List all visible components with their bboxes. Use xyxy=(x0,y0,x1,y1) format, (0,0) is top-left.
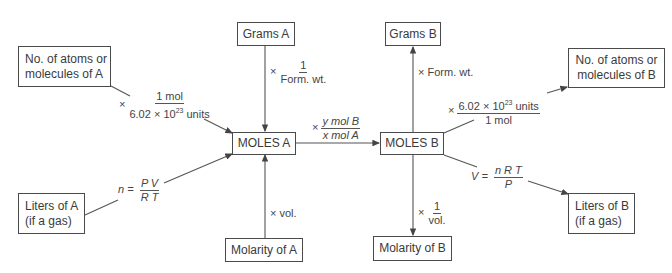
ideal-gas-volume-b-formula: V = n R TP xyxy=(471,164,523,191)
liters-b-line1: Liters of B xyxy=(575,199,629,214)
moles-a-box: MOLES A xyxy=(232,132,296,155)
moles-to-molarity-b-factor: ×1vol. xyxy=(418,200,447,227)
atoms-a-box: No. of atoms or molecules of A xyxy=(18,46,111,87)
liters-b-line2: (if a gas) xyxy=(575,214,622,229)
liters-a-box: Liters of A (if a gas) xyxy=(18,193,85,234)
liters-b-box: Liters of B (if a gas) xyxy=(568,193,635,234)
grams-b-label: Grams B xyxy=(389,27,436,42)
atoms-a-line1: No. of atoms or xyxy=(25,52,107,67)
grams-a-box: Grams A xyxy=(237,22,295,46)
atoms-to-moles-a-factor: ×1 mol6.02 × 1023 units xyxy=(119,90,211,121)
ideal-gas-moles-a-formula: n = P VR T xyxy=(118,177,159,204)
moles-to-grams-b-factor: × Form. wt. xyxy=(418,66,473,79)
liters-a-line1: Liters of A xyxy=(25,199,78,214)
grams-to-moles-a-factor: ×1Form. wt. xyxy=(270,59,327,86)
atoms-b-line1: No. of atoms or xyxy=(575,53,657,68)
moles-to-atoms-b-factor: ×6.02 × 1023 units1 mol xyxy=(448,96,540,127)
moles-b-box: MOLES B xyxy=(380,132,444,155)
molarity-a-box: Molarity of A xyxy=(225,238,303,262)
atoms-a-line2: molecules of A xyxy=(25,67,103,82)
grams-a-label: Grams A xyxy=(243,27,290,42)
atoms-b-line2: molecules of B xyxy=(577,68,656,83)
molarity-b-box: Molarity of B xyxy=(373,236,452,261)
liters-a-line2: (if a gas) xyxy=(25,214,72,229)
moles-a-label: MOLES A xyxy=(238,136,291,151)
mole-ratio-factor: ×y mol Bx mol A xyxy=(312,115,360,142)
moles-b-label: MOLES B xyxy=(385,136,438,151)
atoms-b-box: No. of atoms or molecules of B xyxy=(568,48,665,88)
grams-b-box: Grams B xyxy=(385,22,441,46)
molarity-a-label: Molarity of A xyxy=(231,243,297,258)
molarity-to-moles-a-factor: × vol. xyxy=(270,207,297,220)
molarity-b-label: Molarity of B xyxy=(379,241,446,256)
